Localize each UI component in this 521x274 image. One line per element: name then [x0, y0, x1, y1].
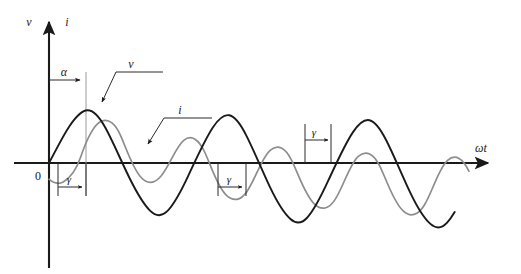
current-curve-label: i — [178, 103, 181, 117]
current-leader-line — [148, 118, 212, 144]
voltage-curve-label: v — [128, 57, 134, 71]
axis-label-omega-t: ωt — [475, 141, 487, 155]
axis-label-current: i — [65, 15, 68, 29]
origin-label: 0 — [35, 169, 41, 183]
current-leader: i — [148, 103, 212, 144]
alpha-label: α — [61, 65, 68, 79]
figure-canvas: v i ωt 0 α γ γ — [0, 0, 521, 274]
current-waveform — [49, 120, 469, 214]
voltage-leader: v — [102, 57, 163, 102]
waveform-diagram: v i ωt 0 α γ γ — [0, 0, 521, 274]
gamma-2-label: γ — [227, 173, 232, 185]
gamma-annotation-1: γ — [58, 163, 86, 196]
alpha-annotation: α — [49, 65, 80, 80]
gamma-1-label: γ — [67, 173, 72, 185]
voltage-leader-line — [102, 72, 163, 102]
voltage-waveform — [49, 110, 455, 227]
axis-label-voltage: v — [26, 15, 32, 29]
gamma-3-label: γ — [312, 126, 317, 138]
gamma-annotation-3: γ — [305, 124, 331, 163]
